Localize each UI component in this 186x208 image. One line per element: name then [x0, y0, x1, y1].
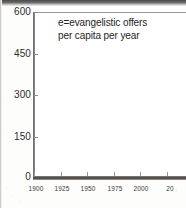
x-tick-label-2000: 2000: [133, 185, 148, 192]
y-tick-label-0: 0: [25, 171, 31, 182]
y-tick-300: [34, 95, 38, 96]
y-tick-600: [34, 12, 38, 13]
scan-speckle: [12, 196, 13, 197]
y-tick-label-300: 300: [14, 89, 31, 100]
y-tick-label-150: 150: [14, 131, 31, 142]
plot-annotation-line-2: per capita per year: [58, 30, 147, 43]
y-axis-line: [33, 12, 35, 180]
scan-speckle: [20, 201, 21, 202]
x-tick-2000: [140, 172, 141, 176]
y-tick-label-600: 600: [14, 6, 31, 17]
plot-annotation-line-1: e=evangelistic offers: [58, 17, 147, 30]
plot-annotation: e=evangelistic offers per capita per yea…: [58, 17, 147, 42]
x-tick-2025: [167, 172, 168, 176]
x-tick-label-1900: 1900: [28, 185, 43, 192]
x-tick-label-2025: 20: [166, 185, 174, 192]
scan-speckle: [176, 190, 177, 191]
scan-artifact-left-edge: [0, 0, 2, 208]
x-tick-1950: [87, 172, 88, 176]
chart-figure: 600 450 300 150 0 1900 1925 1950 1975 20…: [0, 0, 186, 208]
y-tick-label-450: 450: [14, 48, 31, 59]
x-tick-1975: [114, 172, 115, 176]
x-tick-1900: [34, 172, 35, 176]
y-tick-150: [34, 137, 38, 138]
x-axis-line-with-zero-series: [33, 176, 186, 180]
x-tick-label-1925: 1925: [54, 185, 69, 192]
x-tick-1925: [61, 172, 62, 176]
x-tick-label-1975: 1975: [107, 185, 122, 192]
y-tick-450: [34, 54, 38, 55]
scan-speckle: [6, 188, 7, 189]
x-tick-label-1950: 1950: [80, 185, 95, 192]
